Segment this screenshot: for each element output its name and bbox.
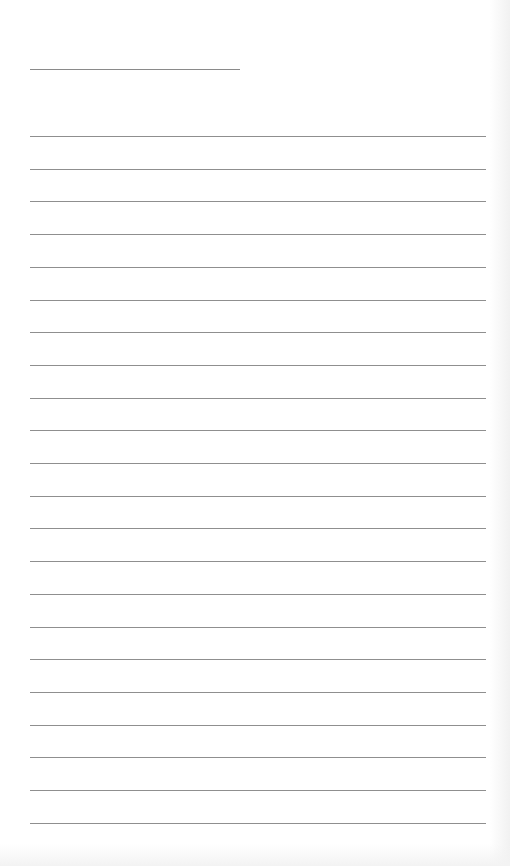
ruled-line [30,169,486,170]
ruled-line [30,757,486,758]
ruled-line [30,561,486,562]
ruled-line [30,234,486,235]
ruled-line [30,823,486,824]
ruled-line [30,692,486,693]
ruled-line [30,267,486,268]
ruled-line [30,430,486,431]
ruled-line [30,201,486,202]
header-name-line [30,69,240,70]
ruled-line [30,496,486,497]
ruled-line [30,398,486,399]
ruled-line [30,725,486,726]
ruled-line [30,365,486,366]
ruled-line [30,594,486,595]
ruled-line [30,136,486,137]
ruled-line [30,790,486,791]
ruled-line [30,332,486,333]
lined-paper-page [0,0,510,866]
ruled-line [30,659,486,660]
ruled-line [30,463,486,464]
ruled-line [30,528,486,529]
ruled-line [30,300,486,301]
ruled-line [30,627,486,628]
